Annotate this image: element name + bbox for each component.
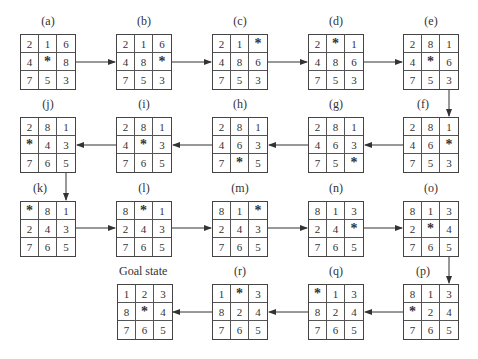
tile: 1 — [153, 202, 171, 220]
tile: 1 — [57, 118, 75, 136]
tile: 3 — [249, 285, 267, 303]
state-label: (c) — [212, 14, 268, 28]
tile: 2 — [21, 220, 39, 238]
tile: 7 — [404, 71, 422, 89]
tile: 1 — [153, 118, 171, 136]
tile: 2 — [213, 35, 231, 53]
state-label: (q) — [308, 264, 364, 278]
tile: 6 — [231, 238, 249, 256]
tile: 1 — [213, 285, 231, 303]
tile: 5 — [39, 71, 57, 89]
tile: 7 — [404, 321, 422, 339]
tile: 2 — [21, 118, 39, 136]
tile: 8 — [39, 118, 57, 136]
blank-tile: * — [345, 220, 363, 238]
puzzle-grid: 2 8 1 4 6 3 7 5 * — [308, 117, 364, 173]
tile: 3 — [249, 220, 267, 238]
tile: 4 — [404, 136, 422, 154]
tile: 2 — [213, 118, 231, 136]
tile: 8 — [213, 303, 231, 321]
tile: 2 — [117, 35, 135, 53]
puzzle-grid: 2 8 1 4 6 * 7 5 3 — [403, 117, 459, 173]
tile: 4 — [135, 220, 153, 238]
state-k: (k) * 8 1 2 4 3 7 6 5 — [20, 201, 76, 257]
puzzle-grid: 8 1 * 2 4 3 7 6 5 — [212, 201, 268, 257]
tile: 5 — [57, 238, 75, 256]
tile: 6 — [57, 35, 75, 53]
tile: 6 — [39, 238, 57, 256]
tile: 1 — [327, 285, 345, 303]
state-label: (j) — [20, 97, 76, 111]
tile: 7 — [404, 238, 422, 256]
tile: 3 — [345, 285, 363, 303]
tile: 6 — [422, 136, 440, 154]
puzzle-grid: 2 1 6 4 * 8 7 5 3 — [20, 34, 76, 90]
tile: 4 — [213, 53, 231, 71]
state-c: (c) 2 1 * 4 8 6 7 5 3 — [212, 34, 268, 90]
puzzle-grid: * 8 1 2 4 3 7 6 5 — [20, 201, 76, 257]
tile: 1 — [440, 35, 458, 53]
state-f: (f) 2 8 1 4 6 * 7 5 3 — [403, 117, 459, 173]
state-label: (l) — [116, 181, 172, 195]
tile: 3 — [57, 71, 75, 89]
blank-tile: * — [21, 202, 39, 220]
blank-tile: * — [327, 35, 345, 53]
tile: 3 — [57, 220, 75, 238]
tile: 1 — [135, 35, 153, 53]
tile: 8 — [213, 202, 231, 220]
blank-tile: * — [135, 202, 153, 220]
state-goal: Goal state 1 2 3 8 * 4 7 6 5 — [117, 284, 173, 340]
tile: 7 — [213, 71, 231, 89]
tile: 5 — [440, 238, 458, 256]
state-q: (q) * 1 3 8 2 4 7 6 5 — [308, 284, 364, 340]
tile: 7 — [309, 154, 327, 172]
blank-tile: * — [39, 53, 57, 71]
tile: 1 — [345, 35, 363, 53]
tile: 8 — [404, 285, 422, 303]
tile: 2 — [213, 220, 231, 238]
tile: 4 — [154, 303, 172, 321]
goal-state-label: Goal state — [119, 264, 199, 278]
tile: 1 — [440, 118, 458, 136]
tile: 8 — [327, 118, 345, 136]
puzzle-grid: 8 1 3 2 4 * 7 6 5 — [308, 201, 364, 257]
puzzle-grid: 2 1 * 4 8 6 7 5 3 — [212, 34, 268, 90]
state-label: (a) — [20, 14, 76, 28]
tile: 4 — [249, 303, 267, 321]
tile: 4 — [39, 220, 57, 238]
blank-tile: * — [309, 285, 327, 303]
tile: 7 — [309, 321, 327, 339]
tile: 2 — [404, 118, 422, 136]
state-h: (h) 2 8 1 4 6 3 7 * 5 — [212, 117, 268, 173]
tile: 6 — [327, 238, 345, 256]
blank-tile: * — [249, 35, 267, 53]
tile: 3 — [57, 136, 75, 154]
puzzle-grid: 8 1 3 2 * 4 7 6 5 — [403, 201, 459, 257]
state-p: (p) 8 1 3 * 2 4 7 6 5 — [403, 284, 459, 340]
tile: 8 — [404, 202, 422, 220]
blank-tile: * — [21, 136, 39, 154]
tile: 2 — [117, 118, 135, 136]
state-label: (n) — [308, 181, 364, 195]
tile: 6 — [249, 53, 267, 71]
tile: 6 — [440, 53, 458, 71]
puzzle-grid: 2 8 1 4 6 3 7 * 5 — [212, 117, 268, 173]
tile: 1 — [39, 35, 57, 53]
tile: 5 — [327, 71, 345, 89]
tile: 4 — [21, 53, 39, 71]
tile: 8 — [327, 53, 345, 71]
tile: 5 — [57, 154, 75, 172]
tile: 6 — [327, 136, 345, 154]
tile: 1 — [327, 202, 345, 220]
puzzle-grid: 1 2 3 8 * 4 7 6 5 — [117, 284, 173, 340]
blank-tile: * — [440, 136, 458, 154]
tile: 7 — [213, 154, 231, 172]
blank-tile: * — [345, 154, 363, 172]
tile: 2 — [422, 303, 440, 321]
puzzle-grid: 2 8 1 * 4 3 7 6 5 — [20, 117, 76, 173]
blank-tile: * — [249, 202, 267, 220]
tile: 1 — [57, 202, 75, 220]
tile: 7 — [309, 238, 327, 256]
puzzle-grid: 1 * 3 8 2 4 7 6 5 — [212, 284, 268, 340]
tile: 5 — [249, 321, 267, 339]
